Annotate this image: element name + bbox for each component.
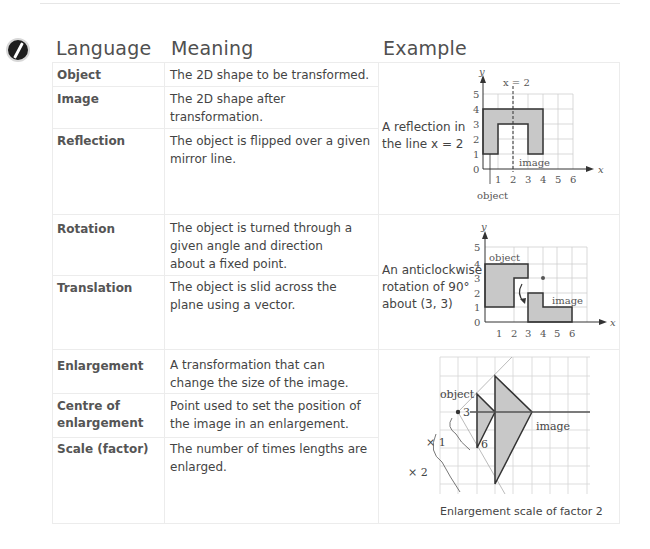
term-centre-of-enlargement: Centre of enlargement	[57, 398, 143, 432]
term-scale-factor: Scale (factor)	[57, 441, 149, 458]
svg-text:object: object	[489, 252, 520, 263]
svg-text:2: 2	[474, 288, 480, 299]
svg-text:3: 3	[463, 406, 470, 419]
meaning-rotation: The object is turned through a given ang…	[170, 219, 360, 273]
term-rotation: Rotation	[57, 221, 115, 238]
reflection-diagram: y x x = 2 5 4 3 2 1 0 1 2 3 4 5 6 image …	[455, 64, 605, 204]
row-divider	[52, 349, 620, 350]
meaning-reflection: The object is flipped over a given mirro…	[170, 132, 375, 168]
meaning-object: The 2D shape to be transformed.	[170, 66, 375, 84]
svg-text:1: 1	[473, 149, 479, 160]
header-language: Language	[56, 37, 151, 59]
term-enlargement: Enlargement	[57, 358, 144, 375]
rotation-description: An anticlockwise rotation of 90° about (…	[382, 262, 482, 313]
text-line: about (3, 3)	[382, 296, 482, 313]
svg-text:0: 0	[473, 164, 479, 175]
svg-text:1: 1	[495, 174, 501, 185]
text-line: A reflection in	[382, 119, 465, 136]
svg-text:image: image	[519, 157, 550, 168]
svg-text:y: y	[478, 66, 485, 77]
column-divider	[378, 62, 379, 524]
svg-text:2: 2	[473, 134, 479, 145]
svg-text:3: 3	[473, 119, 479, 130]
rotation-diagram: y x 5 4 3 2 1 0 1 2 3 4 5 6 object image	[470, 220, 620, 345]
header-example: Example	[383, 37, 467, 59]
enlargement-diagram: object 3 6 image × 1 × 2	[400, 352, 600, 502]
column-divider	[164, 62, 165, 524]
svg-text:4: 4	[540, 328, 546, 339]
row-divider	[52, 214, 620, 215]
svg-text:2: 2	[510, 174, 516, 185]
svg-text:image: image	[552, 295, 583, 306]
svg-text:6: 6	[569, 328, 575, 339]
svg-text:y: y	[480, 221, 487, 232]
svg-text:4: 4	[473, 104, 479, 115]
svg-text:0: 0	[474, 317, 480, 328]
svg-text:4: 4	[474, 259, 480, 270]
term-line: enlargement	[57, 415, 143, 432]
header-meaning: Meaning	[171, 37, 254, 59]
svg-text:× 1: × 1	[426, 436, 446, 449]
svg-text:5: 5	[474, 242, 480, 253]
svg-text:× 2: × 2	[408, 466, 428, 479]
svg-text:x: x	[610, 317, 616, 328]
term-image: Image	[57, 91, 99, 108]
svg-text:image: image	[536, 420, 570, 433]
enlargement-caption: Enlargement scale of factor 2	[440, 505, 603, 518]
svg-text:object: object	[440, 388, 475, 401]
row-divider	[52, 128, 378, 129]
svg-text:x = 2: x = 2	[503, 77, 530, 88]
pencil-icon	[6, 38, 30, 62]
svg-text:3: 3	[525, 328, 531, 339]
svg-text:x: x	[598, 164, 604, 175]
svg-text:5: 5	[554, 328, 560, 339]
row-divider	[52, 86, 378, 87]
meaning-enlargement: A transformation that can change the siz…	[170, 356, 360, 392]
meaning-image: The 2D shape after transformation.	[170, 90, 340, 126]
svg-text:4: 4	[540, 174, 546, 185]
svg-text:object: object	[477, 190, 508, 201]
text-line: the line x = 2	[382, 136, 465, 153]
svg-text:5: 5	[473, 89, 479, 100]
term-translation: Translation	[57, 280, 132, 297]
row-divider	[52, 393, 378, 394]
svg-text:6: 6	[481, 438, 488, 451]
svg-text:1: 1	[474, 302, 480, 313]
svg-text:1: 1	[496, 328, 502, 339]
text-line: rotation of 90°	[382, 279, 482, 296]
meaning-centre-of-enlargement: Point used to set the position of the im…	[170, 397, 375, 433]
svg-text:3: 3	[525, 174, 531, 185]
row-divider	[52, 437, 378, 438]
meaning-translation: The object is slid across the plane usin…	[170, 278, 360, 314]
reflection-description: A reflection in the line x = 2	[382, 119, 465, 153]
term-reflection: Reflection	[57, 133, 125, 150]
term-object: Object	[57, 67, 101, 84]
meaning-scale-factor: The number of times lengths are enlarged…	[170, 440, 375, 476]
svg-text:6: 6	[570, 174, 576, 185]
top-divider	[40, 3, 620, 4]
svg-text:5: 5	[555, 174, 561, 185]
svg-text:3: 3	[474, 273, 480, 284]
text-line: An anticlockwise	[382, 262, 482, 279]
term-line: Centre of	[57, 398, 143, 415]
row-divider	[52, 275, 378, 276]
svg-text:2: 2	[511, 328, 517, 339]
